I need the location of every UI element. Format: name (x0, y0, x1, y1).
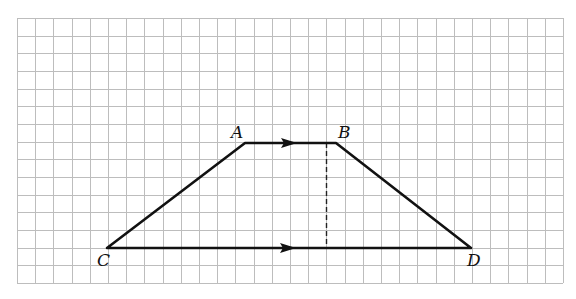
trapezoid-diagram: A B C D (0, 0, 576, 299)
vertex-label-d: D (466, 250, 481, 270)
vertex-label-b: B (337, 122, 351, 142)
grid (17, 18, 564, 284)
vertex-label-c: C (97, 250, 110, 270)
vertex-label-a: A (229, 122, 243, 142)
